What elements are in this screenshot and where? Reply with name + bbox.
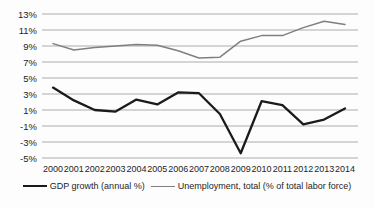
y-axis-tick-label: 9% bbox=[23, 41, 37, 52]
x-axis-tick-label: 2009 bbox=[231, 164, 251, 174]
legend-item-1: Unemployment, total (% of total labor fo… bbox=[151, 181, 352, 191]
y-axis-tick-label: -3% bbox=[20, 137, 37, 148]
x-axis-tick-label: 2010 bbox=[252, 164, 272, 174]
x-axis-tick-label: 2001 bbox=[64, 164, 84, 174]
x-axis-tick-label: 2002 bbox=[85, 164, 105, 174]
y-axis-tick-label: -5% bbox=[20, 153, 37, 164]
x-axis-tick-label: 2014 bbox=[335, 164, 355, 174]
x-axis-tick-label: 2003 bbox=[106, 164, 126, 174]
chart-plot-area: 13%11%9%7%5%3%1%-1%-3%-5%200020012002200… bbox=[0, 0, 374, 209]
legend-item-0: GDP growth (annual %) bbox=[23, 181, 145, 191]
x-axis-tick-label: 2006 bbox=[168, 164, 188, 174]
legend-line-swatch bbox=[23, 185, 47, 187]
y-axis-tick-label: 11% bbox=[19, 25, 38, 36]
series-line-0 bbox=[53, 88, 345, 154]
y-axis-tick-label: -1% bbox=[20, 121, 37, 132]
legend-label: GDP growth (annual %) bbox=[50, 181, 145, 191]
y-axis-tick-label: 3% bbox=[23, 89, 37, 100]
y-axis-tick-label: 7% bbox=[23, 57, 37, 68]
line-chart: 13%11%9%7%5%3%1%-1%-3%-5%200020012002200… bbox=[0, 0, 374, 209]
x-axis-tick-label: 2008 bbox=[210, 164, 230, 174]
series-line-1 bbox=[53, 21, 345, 58]
y-axis-tick-label: 5% bbox=[23, 73, 37, 84]
legend-label: Unemployment, total (% of total labor fo… bbox=[178, 181, 352, 191]
x-axis-tick-label: 2005 bbox=[147, 164, 167, 174]
x-axis-tick-label: 2004 bbox=[126, 164, 146, 174]
chart-legend: GDP growth (annual %)Unemployment, total… bbox=[0, 181, 374, 191]
x-axis-tick-label: 2012 bbox=[293, 164, 313, 174]
y-axis-tick-label: 1% bbox=[23, 105, 37, 116]
x-axis-tick-label: 2011 bbox=[273, 164, 292, 174]
legend-line-swatch bbox=[151, 186, 175, 187]
x-axis-tick-label: 2007 bbox=[189, 164, 209, 174]
x-axis-tick-label: 2000 bbox=[43, 164, 63, 174]
x-axis-tick-label: 2013 bbox=[314, 164, 334, 174]
y-axis-tick-label: 13% bbox=[18, 9, 38, 20]
